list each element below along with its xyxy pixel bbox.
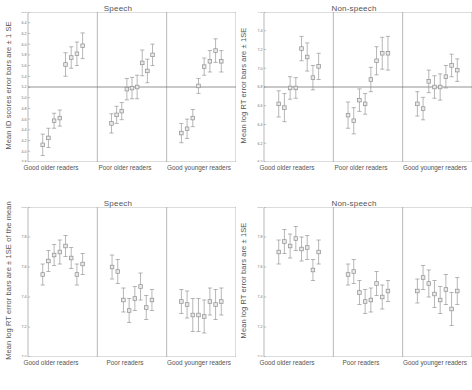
svg-text:5.0: 5.0 [22,96,27,100]
svg-text:5.6: 5.6 [22,64,27,68]
svg-text:6.4: 6.4 [22,21,27,25]
chart-panel-top-right: Non-speech Mean log RT error bars are ± … [236,0,472,195]
x-group-label: Good older readers [250,359,324,366]
svg-text:7.2: 7.2 [258,48,263,52]
svg-text:5.2: 5.2 [22,85,27,89]
x-group-label: Good older readers [14,359,88,366]
plot-area: 7.07.27.47.67.88.0 [250,207,472,357]
y-axis-label: Mean ID scores error bars are ± 1 SE [2,0,14,170]
svg-text:4.4: 4.4 [22,128,27,132]
x-group-label: Poor older readers [88,164,162,171]
svg-text:7.2: 7.2 [258,325,263,329]
svg-text:6.0: 6.0 [258,160,263,162]
x-group-label: Good younger readers [398,164,472,171]
svg-text:7.6: 7.6 [22,265,27,269]
chart-panel-bottom-right: Non-speech Mean log RT error bars are ± … [236,195,472,390]
chart-panel-bottom-left: Speech Mean log RT error bars are ± 1SE … [0,195,236,390]
x-axis-group-labels: Good older readers Poor readers Good you… [14,359,236,366]
svg-text:7.2: 7.2 [22,325,27,329]
svg-text:3.8: 3.8 [22,160,27,162]
plot-area: 6.06.26.46.66.87.07.27.47.6 [250,12,472,162]
x-group-label: Good younger readers [162,164,236,171]
svg-text:7.6: 7.6 [258,265,263,269]
svg-text:7.4: 7.4 [258,29,263,33]
svg-text:7.4: 7.4 [22,295,27,299]
y-axis-label: Mean log RT error bars are ± 1SE of the … [2,195,14,365]
plot-area: 3.84.04.24.44.64.85.05.25.45.65.86.06.26… [14,12,236,162]
svg-text:6.6: 6.6 [22,12,27,14]
svg-text:7.0: 7.0 [258,355,263,357]
svg-text:7.8: 7.8 [258,235,263,239]
x-group-label: Good younger readers [162,359,236,366]
svg-text:7.8: 7.8 [22,235,27,239]
x-group-label: Good younger readers [398,359,472,366]
x-group-label: Poor readers [88,359,162,366]
x-group-label: Poor readers [324,359,398,366]
svg-text:5.8: 5.8 [22,53,27,57]
svg-text:4.6: 4.6 [22,118,27,122]
svg-text:7.4: 7.4 [258,295,263,299]
chart-panel-top-left: Speech Mean ID scores error bars are ± 1… [0,0,236,195]
x-axis-group-labels: Good older readers Poor older readers Go… [14,164,236,171]
svg-text:6.0: 6.0 [22,43,27,47]
y-axis-label: Mean log RT error bars are ± 1SE [238,0,250,170]
svg-text:5.4: 5.4 [22,75,27,79]
x-axis-group-labels: Good older readers Poor older readers Go… [250,164,472,171]
y-axis-label: Mean log RT error bars are ± 1SE [238,195,250,365]
figure-panel-grid: Speech Mean ID scores error bars are ± 1… [0,0,472,390]
svg-text:6.8: 6.8 [258,85,263,89]
x-group-label: Good older readers [14,164,88,171]
svg-text:6.2: 6.2 [22,32,27,36]
x-group-label: Poor older readers [324,164,398,171]
svg-text:4.8: 4.8 [22,107,27,111]
svg-text:6.6: 6.6 [258,104,263,108]
svg-text:7.6: 7.6 [258,12,263,14]
svg-text:7.0: 7.0 [258,67,263,71]
x-axis-group-labels: Good older readers Poor readers Good you… [250,359,472,366]
svg-text:4.0: 4.0 [22,150,27,154]
svg-text:7.0: 7.0 [22,355,27,357]
svg-text:8.0: 8.0 [22,207,27,209]
x-group-label: Good older readers [250,164,324,171]
svg-text:4.2: 4.2 [22,139,27,143]
plot-area: 7.07.27.47.67.88.0 [14,207,236,357]
svg-text:6.2: 6.2 [258,142,263,146]
svg-text:8.0: 8.0 [258,207,263,209]
svg-text:6.4: 6.4 [258,123,263,127]
